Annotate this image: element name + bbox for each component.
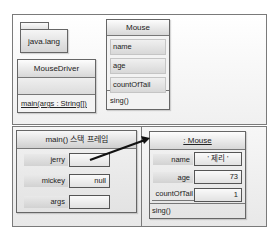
- reference-arrow: [0, 0, 276, 238]
